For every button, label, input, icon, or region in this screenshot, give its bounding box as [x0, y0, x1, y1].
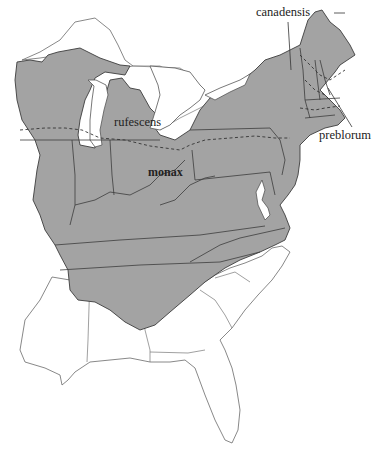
label-canadensis: canadensis	[256, 6, 310, 19]
label-preblorum: preblorum	[319, 129, 371, 142]
map-canvas	[0, 0, 372, 461]
range-map: canadensis rufescens monax preblorum	[0, 0, 372, 461]
label-rufescens: rufescens	[114, 116, 161, 129]
label-monax: monax	[148, 166, 183, 178]
